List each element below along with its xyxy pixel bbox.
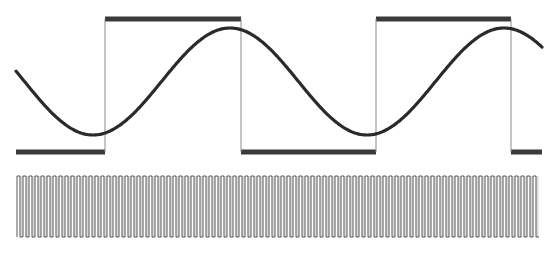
pulse-gap <box>165 176 167 237</box>
pulse-gap <box>135 176 137 237</box>
pulse-gap <box>351 176 353 237</box>
pulse-gap <box>363 176 365 237</box>
pulse-gap <box>63 176 65 237</box>
pulse-gap <box>513 176 515 237</box>
pulse-gap <box>207 176 209 237</box>
pulse-gap <box>141 176 143 237</box>
pulse-gap <box>189 176 191 237</box>
timing-diagram <box>0 0 555 256</box>
pulse-gap <box>333 176 335 237</box>
pulse-gap <box>369 176 371 237</box>
pulse-gap <box>399 176 401 237</box>
pulse-gap <box>465 176 467 237</box>
pulse-gap <box>477 176 479 237</box>
pulse-gap <box>315 176 317 237</box>
pulse-gap <box>279 176 281 237</box>
square-low-segment <box>16 150 105 155</box>
pulse-gap <box>519 176 521 237</box>
pulse-gap <box>267 176 269 237</box>
pulse-gap <box>345 176 347 237</box>
pulse-gap <box>201 176 203 237</box>
pulse-gap <box>75 176 77 237</box>
square-high-segment <box>376 17 511 22</box>
pulse-gap <box>177 176 179 237</box>
pulse-gap <box>33 176 35 237</box>
pulse-gap <box>459 176 461 237</box>
pulse-gap <box>171 176 173 237</box>
pulse-gap <box>303 176 305 237</box>
pulse-gap <box>213 176 215 237</box>
pulse-gap <box>45 176 47 237</box>
pulse-gap <box>123 176 125 237</box>
square-low-segment <box>511 150 542 155</box>
pulse-gap <box>147 176 149 237</box>
pulse-gap <box>219 176 221 237</box>
pulse-gap <box>69 176 71 237</box>
pulse-gap <box>417 176 419 237</box>
pulse-gap <box>51 176 53 237</box>
pulse-gap <box>327 176 329 237</box>
pulse-gap <box>471 176 473 237</box>
pulse-gap <box>339 176 341 237</box>
pulse-gap <box>225 176 227 237</box>
pulse-gap <box>57 176 59 237</box>
pulse-gap <box>237 176 239 237</box>
pulse-gap <box>117 176 119 237</box>
pulse-gap <box>231 176 233 237</box>
pulse-gap <box>111 176 113 237</box>
pulse-gap <box>129 176 131 237</box>
pulse-gap <box>297 176 299 237</box>
pulse-gap <box>441 176 443 237</box>
pulse-gap <box>387 176 389 237</box>
pulse-gap <box>411 176 413 237</box>
pulse-gap <box>87 176 89 237</box>
pulse-gap <box>255 176 257 237</box>
pulse-gap <box>309 176 311 237</box>
pulse-gap <box>495 176 497 237</box>
pulse-gap <box>99 176 101 237</box>
pulse-gap <box>525 176 527 237</box>
pulse-gap <box>375 176 377 237</box>
pulse-gap <box>321 176 323 237</box>
square-high-segment <box>105 17 241 22</box>
pulse-gap <box>483 176 485 237</box>
pulse-gap <box>393 176 395 237</box>
pulse-gap <box>501 176 503 237</box>
pulse-gap <box>447 176 449 237</box>
pulse-gap <box>21 176 23 237</box>
pulse-gap <box>81 176 83 237</box>
pulse-gap <box>153 176 155 237</box>
square-low-segment <box>241 150 376 155</box>
pulse-gap <box>27 176 29 237</box>
pulse-gap <box>489 176 491 237</box>
pulse-gap <box>183 176 185 237</box>
pulse-gap <box>537 176 539 237</box>
pulse-gap <box>423 176 425 237</box>
pulse-gap <box>105 176 107 237</box>
pulse-gap <box>285 176 287 237</box>
pulse-gap <box>249 176 251 237</box>
pulse-gap <box>531 176 533 237</box>
pulse-gap <box>405 176 407 237</box>
pulse-gap <box>291 176 293 237</box>
pulse-gap <box>507 176 509 237</box>
pulse-gap <box>243 176 245 237</box>
pulse-train <box>17 176 539 237</box>
pulse-gap <box>381 176 383 237</box>
pulse-gap <box>435 176 437 237</box>
pulse-gap <box>273 176 275 237</box>
pulse-gap <box>195 176 197 237</box>
pulse-gap <box>39 176 41 237</box>
pulse-gap <box>261 176 263 237</box>
pulse-gap <box>453 176 455 237</box>
pulse-gap <box>429 176 431 237</box>
pulse-train-line <box>17 176 539 237</box>
pulse-gap <box>93 176 95 237</box>
pulse-gap <box>357 176 359 237</box>
pulse-gap <box>159 176 161 237</box>
